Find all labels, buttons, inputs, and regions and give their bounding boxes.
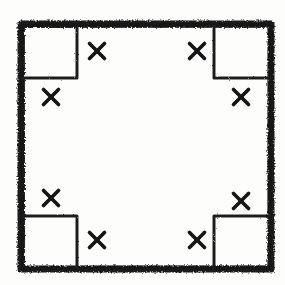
hand-drawn-figure bbox=[0, 0, 285, 285]
paper-background bbox=[0, 0, 285, 285]
figure-canvas bbox=[0, 0, 285, 285]
